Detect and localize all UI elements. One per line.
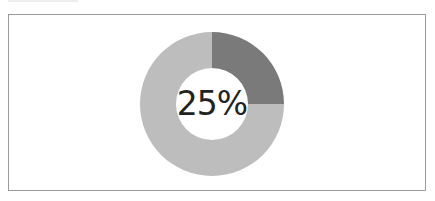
center-percent-label: 25% [162,84,262,124]
